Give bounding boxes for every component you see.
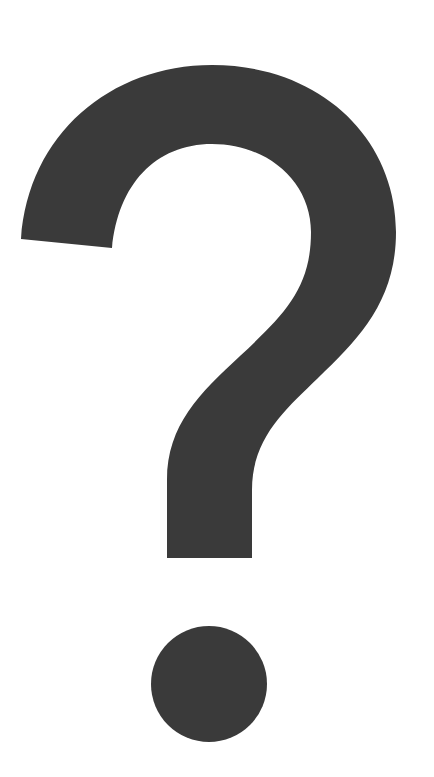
question-mark-hook: [21, 65, 396, 558]
question-mark-graphic: Question mark: [0, 0, 434, 777]
question-mark-icon: [0, 0, 434, 777]
question-mark-dot: [151, 626, 267, 742]
